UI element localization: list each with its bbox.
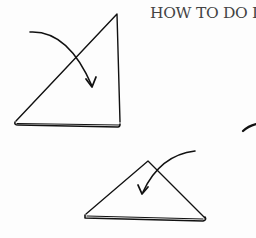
- instruction-page: HOW TO DO IT: [0, 0, 256, 238]
- partial-arrow-icon: [243, 124, 256, 131]
- fold-illustrations: [0, 0, 256, 238]
- step-1-fold-arrow-icon: [30, 32, 96, 87]
- step-2-fold-arrow-icon: [138, 151, 195, 194]
- step-1-triangle-icon: [15, 14, 120, 127]
